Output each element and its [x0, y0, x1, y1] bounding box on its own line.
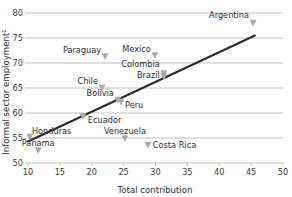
- y-axis-title: Informal sector employment¹: [1, 29, 11, 155]
- data-point-panama: [35, 147, 42, 154]
- data-point-peru: [118, 99, 125, 106]
- point-label-brazil: Brazil: [137, 70, 160, 80]
- x-tick-label-25: 25: [118, 167, 128, 177]
- data-point-paraguay: [102, 53, 109, 60]
- x-tick-label-35: 35: [182, 167, 192, 177]
- x-tick-label-30: 30: [150, 167, 160, 177]
- x-tick-label-40: 40: [214, 167, 224, 177]
- point-label-panama: Panama: [22, 138, 55, 148]
- x-tick-label-20: 20: [87, 167, 97, 177]
- point-label-argentina: Argentina: [209, 10, 249, 20]
- y-tick-label-80: 80: [13, 8, 23, 18]
- data-point-argentina: [250, 20, 257, 27]
- y-tick-label-70: 70: [13, 58, 23, 68]
- data-point-costa-rica: [144, 142, 151, 149]
- x-tick-label-10: 10: [23, 167, 33, 177]
- y-tick-label-50: 50: [13, 158, 23, 168]
- y-tick-label-65: 65: [13, 83, 23, 93]
- y-tick-label-75: 75: [13, 33, 23, 43]
- point-label-mexico: Mexico: [122, 44, 151, 54]
- x-tick-labels: 101520253035404550: [23, 167, 288, 177]
- x-tick-label-50: 50: [278, 167, 288, 177]
- point-label-chile: Chile: [77, 76, 98, 86]
- x-tick-label-45: 45: [246, 167, 256, 177]
- x-tick-label-15: 15: [55, 167, 65, 177]
- point-label-costa-rica: Costa Rica: [153, 140, 196, 150]
- data-point-venezuela: [122, 135, 129, 142]
- point-label-honduras: Honduras: [32, 126, 71, 136]
- x-axis-title: Total contribution: [117, 185, 193, 195]
- scatter-plot: 50556065707580 101520253035404550 Argent…: [0, 0, 292, 197]
- point-label-venezuela: Venezuela: [104, 126, 146, 136]
- point-label-peru: Peru: [125, 100, 143, 110]
- point-label-colombia: Colombia: [121, 59, 159, 69]
- point-labels: ArgentinaParaguayMexicoColombiaBrazilChi…: [22, 10, 249, 150]
- point-label-paraguay: Paraguay: [63, 45, 101, 55]
- chart-container: 50556065707580 101520253035404550 Argent…: [0, 0, 292, 197]
- y-tick-label-60: 60: [13, 108, 23, 118]
- point-label-ecuador: Ecuador: [88, 115, 122, 125]
- point-label-bolivia: Bolivia: [87, 88, 114, 98]
